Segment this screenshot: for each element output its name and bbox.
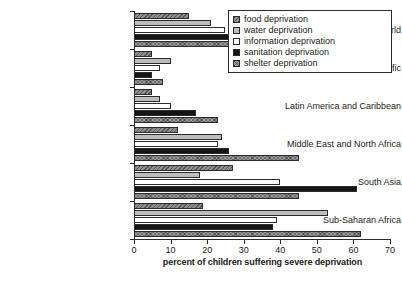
bar-0-1 [134,20,211,26]
bar-4-2 [134,179,280,185]
x-tick-label: 20 [195,245,219,255]
bar-2-4 [134,117,218,123]
bar-0-2 [134,27,225,33]
bar-5-4 [134,231,361,237]
bar-3-3 [134,148,229,154]
bar-3-4 [134,155,299,161]
bar-5-2 [134,217,277,223]
bar-3-2 [134,141,218,147]
bar-1-4 [134,79,163,85]
legend-label: food deprivation [244,14,308,24]
x-tick-label: 70 [378,245,402,255]
bar-5-3 [134,224,273,230]
x-tick [390,240,391,244]
bar-2-3 [134,110,196,116]
bar-5-1 [134,210,328,216]
x-tick [280,240,281,244]
x-tick-label: 30 [232,245,256,255]
x-tick [171,240,172,244]
legend-swatch-icon [233,60,240,67]
x-tick-label: 50 [305,245,329,255]
bar-3-1 [134,134,222,140]
legend-swatch-icon [233,49,240,56]
bar-4-4 [134,193,299,199]
bar-1-1 [134,58,171,64]
legend-label: water deprivation [244,25,313,35]
x-tick [207,240,208,244]
x-tick [317,240,318,244]
bar-1-0 [134,51,152,57]
legend-swatch-icon [233,38,240,45]
legend-swatch-icon [233,16,240,23]
bar-1-3 [134,72,152,78]
x-tick-label: 10 [159,245,183,255]
x-tick-label: 40 [268,245,292,255]
x-tick-label: 60 [341,245,365,255]
legend-label: information deprivation [244,36,335,46]
bar-5-0 [134,203,203,209]
legend-swatch-icon [233,27,240,34]
y-tick [130,239,134,240]
x-axis-title: percent of children suffering severe dep… [134,257,391,267]
x-tick [134,240,135,244]
legend-item-4: shelter deprivation [233,58,387,68]
legend-item-1: water deprivation [233,25,387,35]
x-tick [244,240,245,244]
bar-4-1 [134,172,200,178]
bar-4-3 [134,186,357,192]
x-tick-label: 0 [122,245,146,255]
bar-0-0 [134,13,189,19]
legend-item-3: sanitation deprivation [233,47,387,57]
bar-4-0 [134,165,233,171]
bar-2-1 [134,96,160,102]
bar-2-0 [134,89,152,95]
bar-3-0 [134,127,178,133]
bar-2-2 [134,103,171,109]
legend-label: shelter deprivation [244,58,318,68]
bar-1-2 [134,65,160,71]
legend-label: sanitation deprivation [244,47,329,57]
legend-item-0: food deprivation [233,14,387,24]
legend-item-2: information deprivation [233,36,387,46]
chart-legend: food deprivationwater deprivationinforma… [228,10,392,73]
x-tick [353,240,354,244]
